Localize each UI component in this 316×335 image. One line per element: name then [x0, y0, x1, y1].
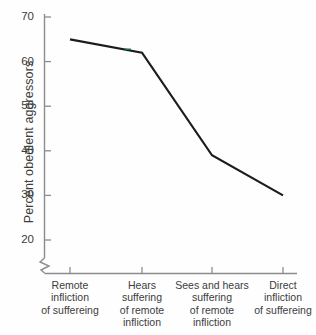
chart-container: Percent obedient aggressors 70 60 50 40 …	[0, 0, 316, 335]
y-tick-label-40: 40	[8, 144, 34, 156]
y-tick-label-50: 50	[8, 99, 34, 111]
y-tick-label-20: 20	[8, 233, 34, 245]
line-artifact-marker	[125, 48, 131, 50]
x-tick-label-sees-and-hears: Sees and hears suffering of remote infli…	[170, 279, 254, 329]
y-tick-label-60: 60	[8, 55, 34, 67]
x-tick-label-remote-infliction: Remote infliction of suffereing	[34, 279, 106, 316]
data-series-line	[70, 39, 283, 195]
x-tick-label-hears-suffering: Hears suffering of remote infliction	[106, 279, 178, 329]
x-tick-label-direct-infliction: Direct infliction of suffereing	[247, 279, 316, 316]
y-axis-break-icon	[40, 258, 49, 273]
y-tick-label-70: 70	[8, 10, 34, 22]
y-tick-label-30: 30	[8, 188, 34, 200]
